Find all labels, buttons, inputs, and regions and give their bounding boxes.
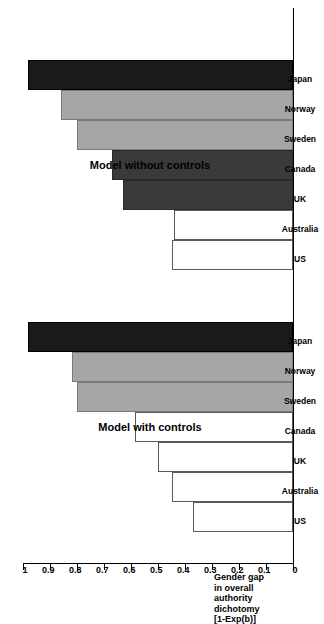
category-label-japan: Japan xyxy=(275,75,324,84)
category-label-norway: Norway xyxy=(275,367,324,376)
category-label-uk: UK xyxy=(275,457,324,466)
category-label-canada: Canada xyxy=(275,165,324,174)
bar-model-without-controls-sweden xyxy=(77,120,293,150)
axis-tick-label: 0 xyxy=(264,566,298,575)
group-title-model-with-controls: Model with controls xyxy=(98,421,201,433)
category-label-uk: UK xyxy=(275,195,324,204)
category-label-us: US xyxy=(275,517,324,526)
category-label-norway: Norway xyxy=(275,105,324,114)
value-axis-title-line: in overall xyxy=(214,582,264,593)
value-axis-baseline xyxy=(293,8,294,564)
category-label-australia: Australia xyxy=(275,487,324,496)
bar-model-with-controls-norway xyxy=(72,352,293,382)
category-label-us: US xyxy=(275,255,324,264)
category-label-japan: Japan xyxy=(275,337,324,346)
bar-model-without-controls-japan xyxy=(28,60,293,90)
value-axis-title-line: Gender gap xyxy=(214,572,264,583)
bar-model-with-controls-sweden xyxy=(77,382,293,412)
value-axis-title-line: [1-Exp(b)] xyxy=(214,614,264,624)
bar-model-with-controls-japan xyxy=(28,322,293,352)
bar-model-with-controls-uk xyxy=(158,442,293,472)
category-label-sweden: Sweden xyxy=(275,397,324,406)
value-axis-title-line: authority xyxy=(214,593,264,604)
category-label-australia: Australia xyxy=(275,225,324,234)
group-title-model-without-controls: Model without controls xyxy=(90,159,210,171)
value-axis-title-line: dichotomy xyxy=(214,603,264,614)
bar-model-without-controls-norway xyxy=(61,90,293,120)
category-label-sweden: Sweden xyxy=(275,135,324,144)
value-axis-title: Gender gapin overallauthoritydichotomy[1… xyxy=(214,572,264,624)
category-label-canada: Canada xyxy=(275,427,324,436)
bar-model-without-controls-uk xyxy=(123,180,293,210)
